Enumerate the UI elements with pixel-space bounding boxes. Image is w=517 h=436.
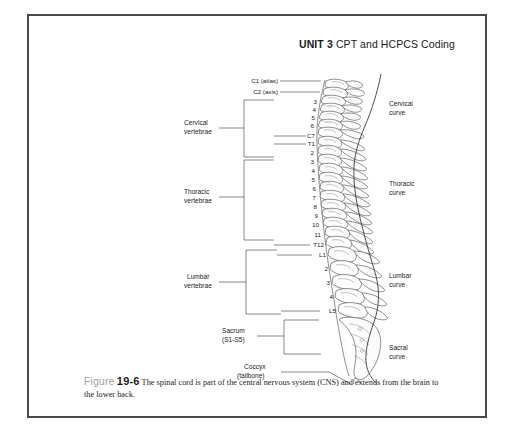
vertebra-label-c7: C7 (307, 132, 315, 139)
unit-title: CPT and HCPCS Coding (336, 38, 455, 50)
cervical-curve-label-line2: curve (389, 109, 405, 116)
vertebra-label-l1: L1 (319, 251, 326, 258)
lumbar-bracket (219, 250, 281, 314)
running-header: UNIT 3 CPT and HCPCS Coding (29, 38, 485, 50)
vertebra-label-t4: 4 (312, 167, 316, 174)
sacrum-label-line2: (S1-S5) (222, 336, 245, 344)
lumbar-vertebrae-label-line1: Lumbar (187, 273, 210, 280)
thoracic-curve-label-line2: curve (389, 189, 405, 196)
vertebra-label-t12: T12 (313, 241, 324, 248)
vertebra-label-c6: 6 (311, 122, 315, 129)
vertebra-label-c1: C1 (atlas) (251, 77, 278, 84)
vertebra-label-t11: 11 (315, 231, 322, 238)
sacral-curve-label-line2: curve (389, 353, 405, 360)
page-frame: UNIT 3 CPT and HCPCS Coding (27, 14, 487, 418)
sacrum-label-line1: Sacrum (222, 327, 245, 334)
cervical-vertebrae-label-line1: Cervical (184, 119, 208, 126)
thoracic-bracket (219, 160, 274, 240)
cervical-vertebrae-label-line2: vertebrae (184, 128, 212, 135)
vertebra-label-t6: 6 (313, 185, 317, 192)
vertebra-label-t1: T1 (308, 140, 316, 147)
right-label-group: Cervical curve Thoracic curve Lumbar cur… (389, 100, 415, 360)
vertebra-label-t2: 2 (311, 149, 315, 156)
vertebral-column-drawing (317, 79, 388, 384)
sacral-curve-label-line1: Sacral (389, 344, 408, 351)
vertebra-label-l5: L5 (329, 307, 336, 314)
vertebra-label-t9: 9 (315, 212, 319, 219)
spine-illustration: Cervical vertebrae Thoracic vertebrae (29, 54, 489, 384)
vertebra-label-c3: 3 (314, 98, 318, 105)
cervical-curve-label-line1: Cervical (389, 100, 413, 107)
coccyx-label-line1: Coccyx (244, 363, 266, 371)
unit-number: UNIT 3 (299, 38, 333, 50)
vertebra-label-c5: 5 (312, 114, 316, 121)
spine-figure: Cervical vertebrae Thoracic vertebrae (29, 54, 489, 384)
cervical-bracket (219, 100, 274, 157)
figure-word: Figure (84, 376, 115, 387)
page: UNIT 3 CPT and HCPCS Coding (0, 0, 517, 436)
thoracic-vertebrae-label-line2: vertebrae (184, 197, 212, 204)
vertebra-label-l2: 2 (325, 265, 329, 272)
vertebra-label-c4: 4 (313, 106, 317, 113)
figure-number: 19-6 (117, 375, 140, 387)
sacrum-bracket (257, 320, 321, 354)
figure-caption: Figure 19-6 The spinal cord is part of t… (84, 374, 444, 400)
lumbar-curve-label-line1: Lumbar (389, 272, 412, 279)
vertebra-label-l3: 3 (327, 279, 331, 286)
vertebra-label-t3: 3 (311, 158, 315, 165)
thoracic-vertebrae-label-line1: Thoracic (184, 188, 210, 195)
vertebra-label-t10: 10 (312, 221, 319, 228)
lumbar-vertebrae-label-line2: vertebrae (184, 282, 212, 289)
vertebra-label-t7: 7 (313, 194, 317, 201)
vertebra-label-l4: 4 (330, 293, 334, 300)
vertebra-label-t8: 8 (314, 203, 318, 210)
vertebra-label-c2: C2 (axis) (253, 88, 278, 95)
thoracic-curve-label-line1: Thoracic (389, 180, 415, 187)
lumbar-curve-label-line2: curve (389, 281, 405, 288)
vertebra-label-t5: 5 (312, 176, 316, 183)
